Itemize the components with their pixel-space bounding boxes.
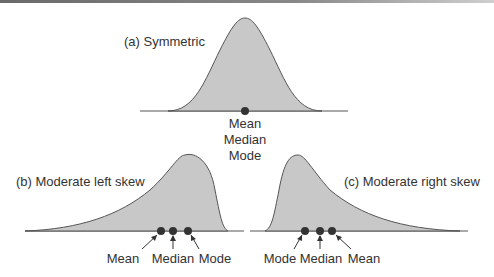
symmetric-curve [140, 18, 348, 115]
left-skew-curve [25, 154, 244, 249]
panel-c-label-mode: Mode [264, 251, 297, 266]
right-skew-curve [250, 155, 468, 249]
panel-c-label-median: Median [300, 251, 343, 266]
panel-c-label-mean: Mean [348, 251, 381, 266]
panel-c-title: (c) Moderate right skew [344, 174, 480, 189]
panel-b-label-median: Median [152, 251, 195, 266]
panel-a-label-mean: Mean [229, 116, 262, 131]
panel-b-label-mode: Mode [199, 251, 232, 266]
panel-a-title: (a) Symmetric [124, 34, 205, 49]
panel-a-label-median: Median [224, 132, 267, 147]
panel-b-label-mean: Mean [107, 251, 140, 266]
panel-b-title: (b) Moderate left skew [16, 174, 145, 189]
panel-a-label-mode: Mode [229, 148, 262, 163]
center-dot [241, 107, 249, 115]
